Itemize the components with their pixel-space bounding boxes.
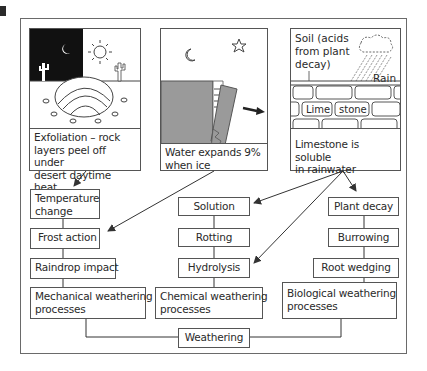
svg-text:decay): decay) xyxy=(295,58,331,70)
rock-block-icon xyxy=(161,81,237,143)
box-raindrop-impact: Raindrop impact xyxy=(30,258,116,279)
figure-number-mark xyxy=(0,6,6,16)
cactus-icon xyxy=(115,63,125,81)
panel-limestone: Soil (acids from plant decay) Rain Lime … xyxy=(290,28,401,129)
arrow-right-icon xyxy=(243,107,265,115)
svg-text:Lime: Lime xyxy=(306,104,330,115)
cloud-icon xyxy=(359,35,392,52)
box-biological-weathering: Biological weathering processes xyxy=(282,282,397,319)
svg-text:stone: stone xyxy=(339,104,367,115)
box-plant-decay: Plant decay xyxy=(328,197,399,216)
caption-exfoliation: Exfoliation – rock layers peel off under… xyxy=(29,128,141,171)
panel-frost xyxy=(160,28,268,144)
box-solution: Solution xyxy=(178,197,250,216)
exfoliation-illustration xyxy=(30,29,140,128)
frost-illustration xyxy=(161,29,267,143)
svg-text:Soil (acids: Soil (acids xyxy=(295,32,349,44)
box-root-wedging: Root wedging xyxy=(313,258,399,278)
caption-frost: Water expands 9% when ice xyxy=(160,143,268,171)
box-hydrolysis: Hydrolysis xyxy=(178,258,250,278)
box-frost-action: Frost action xyxy=(30,228,100,249)
box-temperature-change: Temperature change xyxy=(30,189,100,219)
box-rotting: Rotting xyxy=(178,228,250,247)
moon-icon xyxy=(186,49,195,61)
svg-text:Rain: Rain xyxy=(373,72,396,84)
sun-icon xyxy=(88,40,112,64)
box-mechanical-weathering: Mechanical weathering processes xyxy=(30,287,146,319)
limestone-illustration: Soil (acids from plant decay) Rain Lime … xyxy=(291,29,400,128)
panel-exfoliation xyxy=(29,28,141,129)
caption-limestone: Limestone is soluble in rainwater xyxy=(290,128,401,171)
box-chemical-weathering: Chemical weathering processes xyxy=(155,287,263,319)
star-icon xyxy=(232,39,246,52)
box-burrowing: Burrowing xyxy=(328,228,399,247)
rock-dome-icon xyxy=(43,77,127,123)
box-weathering: Weathering xyxy=(178,328,250,348)
svg-text:from plant: from plant xyxy=(295,45,350,57)
